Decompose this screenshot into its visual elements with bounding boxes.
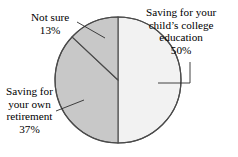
pie-chart: Saving for your child’s college educatio… (0, 0, 238, 157)
slice-label-retirement-line3: retirement (6, 110, 53, 123)
slice-label-college-value: 50% (146, 44, 216, 57)
slice-label-college-line2: child’s college (146, 19, 216, 32)
slice-label-college-line1: Saving for your (146, 6, 216, 19)
slice-label-notsure: Not sure 13% (31, 11, 69, 36)
slice-label-retirement: Saving for your own retirement 37% (6, 85, 53, 135)
slice-label-retirement-line1: Saving for (6, 85, 53, 98)
slice-label-notsure-value: 13% (31, 24, 69, 37)
slice-label-college-line3: education (146, 31, 216, 44)
slice-label-college: Saving for your child’s college educatio… (146, 6, 216, 56)
slice-label-retirement-value: 37% (6, 123, 53, 136)
slice-label-retirement-line2: your own (6, 98, 53, 111)
slice-label-notsure-line1: Not sure (31, 11, 69, 24)
